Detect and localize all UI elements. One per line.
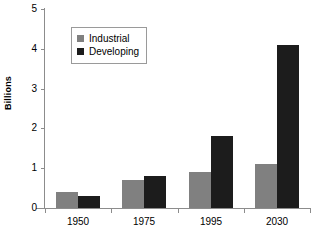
y-axis-tick-label: 3 (18, 84, 37, 94)
legend-swatch-icon-industrial (77, 35, 84, 42)
bar-industrial-2030 (255, 164, 277, 208)
bar-developing-1995 (211, 136, 233, 208)
legend-item-developing: Developing (77, 45, 139, 58)
x-axis-line (36, 208, 311, 209)
bar-developing-1975 (144, 176, 166, 208)
legend-item-industrial: Industrial (77, 32, 139, 45)
x-axis-tick-label: 2030 (244, 216, 310, 227)
x-axis-tick-label: 1950 (45, 216, 111, 227)
bar-industrial-1995 (189, 172, 211, 208)
legend-swatch-icon-developing (77, 48, 84, 55)
x-axis-tick (244, 209, 245, 213)
bar-chart: Billions 012345 1950197519952030 Industr… (0, 0, 331, 236)
x-axis-tick-label: 1995 (178, 216, 244, 227)
y-axis-title: Billions (3, 63, 13, 123)
bar-industrial-1975 (122, 180, 144, 208)
y-axis-tick-label: 4 (18, 44, 37, 54)
legend-label-industrial: Industrial (89, 33, 130, 44)
x-axis-tick-label: 1975 (111, 216, 177, 227)
y-axis-tick-label: 0 (18, 203, 37, 213)
y-axis-tick-label: 1 (18, 163, 37, 173)
x-axis-tick (111, 209, 112, 213)
legend-label-developing: Developing (89, 46, 139, 57)
x-axis-tick (310, 209, 311, 213)
x-axis-tick (45, 209, 46, 213)
bar-industrial-1950 (56, 192, 78, 208)
chart-legend: Industrial Developing (71, 27, 147, 64)
y-axis-tick-label: 2 (18, 123, 37, 133)
x-axis-tick (178, 209, 179, 213)
bar-developing-1950 (78, 196, 100, 208)
bar-developing-2030 (277, 45, 299, 208)
y-axis-tick-label: 5 (18, 4, 37, 14)
